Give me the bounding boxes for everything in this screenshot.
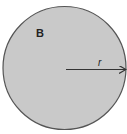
circle-diagram: B r: [0, 0, 127, 134]
diagram-canvas: B r: [0, 0, 127, 134]
circle-label: B: [36, 27, 44, 39]
circle-b: [3, 7, 126, 130]
